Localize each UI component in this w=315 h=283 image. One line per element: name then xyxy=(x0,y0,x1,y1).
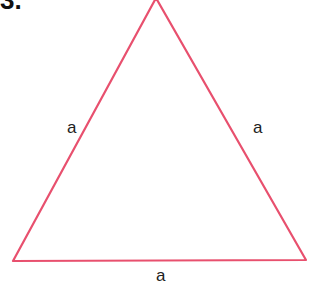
triangle-diagram xyxy=(0,0,315,283)
side-label-left: a xyxy=(67,119,76,136)
side-label-bottom: a xyxy=(156,267,165,283)
side-label-right: a xyxy=(253,119,262,136)
